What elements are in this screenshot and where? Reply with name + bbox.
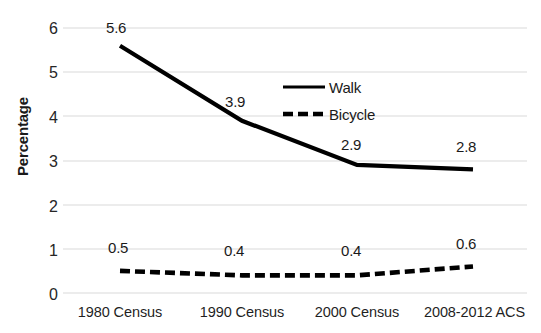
data-label-bicycle-1990: 0.4 (224, 243, 244, 258)
data-label-walk-2000: 2.9 (341, 137, 361, 152)
x-tick-1980-census: 1980 Census (60, 305, 180, 320)
legend-label-walk: Walk (329, 80, 361, 95)
data-label-bicycle-2000: 0.4 (341, 243, 361, 258)
gridlines (63, 28, 527, 293)
data-label-walk-1990: 3.9 (225, 94, 245, 109)
data-label-walk-2008: 2.8 (456, 139, 476, 154)
plot-area (0, 0, 541, 333)
line-chart: Percentage 6 5 4 3 2 1 0 Walk Bicycle 5.… (0, 0, 541, 333)
legend-marks (283, 87, 325, 114)
x-tick-1990-census: 1990 Census (182, 305, 302, 320)
x-tick-2000-census: 2000 Census (297, 305, 417, 320)
data-label-bicycle-1980: 0.5 (108, 240, 128, 255)
data-label-walk-1980: 5.6 (106, 20, 126, 35)
legend-label-bicycle: Bicycle (329, 107, 375, 122)
data-label-bicycle-2008: 0.6 (456, 236, 476, 251)
series-line-bicycle (120, 267, 473, 276)
series-line-walk (120, 46, 473, 170)
x-tick-2008-2012-acs: 2008-2012 ACS (412, 305, 537, 320)
